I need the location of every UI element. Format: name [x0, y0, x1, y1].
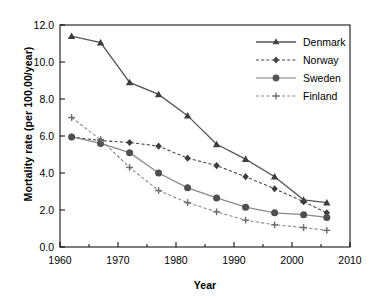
y-tick-label: 8.0 — [20, 94, 54, 104]
legend-label-sweden: Sweden — [297, 72, 341, 84]
legend-label-denmark: Denmark — [297, 36, 346, 48]
legend-item-norway: Norway — [255, 51, 346, 69]
legend-key-norway — [255, 53, 297, 67]
legend-key-sweden — [255, 71, 297, 85]
legend-key-finland — [255, 89, 297, 103]
x-tick-label: 1980 — [154, 254, 198, 266]
y-tick-label: 6.0 — [20, 131, 54, 141]
x-tick-label: 2000 — [270, 254, 314, 266]
legend-key-denmark — [255, 35, 297, 49]
x-tick-label: 1970 — [96, 254, 140, 266]
y-tick-label: 10.0 — [20, 57, 54, 67]
x-tick-label: 1990 — [212, 254, 256, 266]
y-tick-label: 0.0 — [20, 242, 54, 252]
x-tick-label: 1960 — [38, 254, 82, 266]
y-tick-label: 2.0 — [20, 205, 54, 215]
y-tick-label: 12.0 — [20, 20, 54, 30]
x-tick-label: 2010 — [328, 254, 372, 266]
y-tick-label: 4.0 — [20, 168, 54, 178]
legend-item-denmark: Denmark — [255, 33, 346, 51]
mortality-rate-line-chart: Mortality rate (per 100,00/year) 12.0 10… — [0, 0, 392, 299]
chart-legend: Denmark Norway Sweden Finland — [255, 33, 346, 105]
legend-label-norway: Norway — [297, 54, 339, 66]
legend-label-finland: Finland — [297, 90, 337, 102]
legend-item-sweden: Sweden — [255, 69, 346, 87]
x-axis-title: Year — [60, 279, 350, 291]
legend-item-finland: Finland — [255, 87, 346, 105]
